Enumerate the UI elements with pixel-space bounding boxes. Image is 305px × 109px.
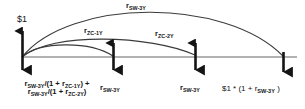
cashflow-label-t1-sub: SW-3Y [103,87,120,93]
t0-l2-b-sub: ZC-2Y [68,91,84,97]
cashflow-label-t1: rSW-3Y [100,84,120,92]
arc-label-zc-2y: rZC-2Y [155,30,174,38]
arc-label-sw-3y-sub: SW-3Y [129,5,146,11]
cashflow-label-t3-prefix: $1 * (1 + r [222,84,257,93]
t0-l1-b-sub: ZC-1Y [65,83,81,89]
cashflow-label-t3: $1 * (1 + rSW-3Y ) [222,85,280,93]
t0-l2-a-sub: SW-3Y [31,91,48,97]
arc-rate-zc-2y [22,39,195,57]
t0-l1-a-sub: SW-3Y [27,83,44,89]
cashflow-label-t3-sub: SW-3Y [257,88,275,94]
cashflow-label-t2: rSW-3Y [180,84,200,92]
cashflow-label-t2-sub: SW-3Y [183,87,200,93]
arc-rate-zc-1y [22,45,113,57]
cashflow-label-t0-line2: rSW-3Y/(1 + rZC-2Y) [2,88,112,96]
cashflow-label-t3-suffix: ) [275,84,280,93]
t0-l2-c: ) [84,87,87,96]
arc-label-zc-1y-sub: ZC-1Y [87,30,103,36]
cashflow-label-t0: rSW-3Y/(1 + rZC-1Y) + rSW-3Y/(1 + rZC-2Y… [2,80,112,96]
arc-label-zc-1y: rZC-1Y [84,27,103,35]
cashflow-timeline-diagram: $1 rSW-3Y rZC-1Y rZC-2Y rSW-3Y/(1 + rZC-… [0,0,305,109]
arc-label-zc-2y-sub: ZC-2Y [158,33,174,39]
dollar-inflow-label: $1 [17,15,27,24]
arc-rate-sw-3y [22,12,283,57]
arc-label-sw-3y: rSW-3Y [126,2,146,10]
